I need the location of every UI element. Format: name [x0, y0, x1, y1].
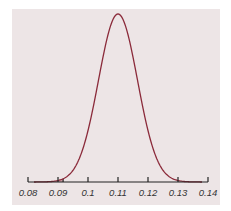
- x-tick-label: 0.1: [81, 187, 94, 198]
- x-tick-label: 0.12: [139, 187, 158, 198]
- x-tick-label: 0.13: [169, 187, 188, 198]
- x-tick-label: 0.08: [19, 187, 38, 198]
- x-tick-label: 0.11: [109, 187, 127, 198]
- normal-distribution-chart: 0.080.090.10.110.120.130.14: [0, 0, 231, 211]
- density-curve: [34, 14, 202, 182]
- x-tick-label: 0.09: [49, 187, 68, 198]
- x-axis-ticks: 0.080.090.10.110.120.130.14: [19, 177, 218, 198]
- x-tick-label: 0.14: [199, 187, 218, 198]
